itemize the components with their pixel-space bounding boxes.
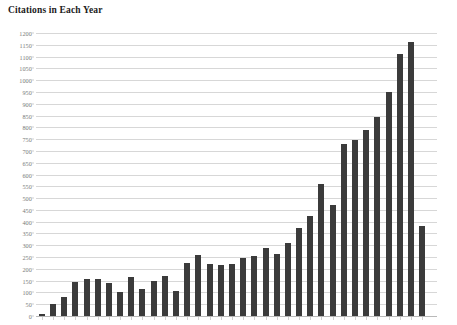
- x-axis-tick-mark: [42, 317, 43, 320]
- y-axis-tick-mark: [31, 245, 34, 246]
- x-axis-tick-mark: [187, 317, 188, 320]
- y-axis-tick-mark: [31, 44, 34, 45]
- bar: [218, 265, 224, 316]
- bar: [95, 279, 101, 316]
- y-axis-tick-mark: [31, 174, 34, 175]
- bar: [285, 243, 291, 316]
- x-axis-tick-mark: [344, 317, 345, 320]
- bar: [296, 228, 302, 316]
- bar: [397, 54, 403, 316]
- x-axis-tick-mark: [232, 317, 233, 320]
- x-axis-tick-mark: [366, 317, 367, 320]
- x-axis-tick-mark: [333, 317, 334, 320]
- bar: [386, 92, 392, 316]
- bar: [419, 226, 425, 316]
- x-axis-tick-mark: [154, 317, 155, 320]
- x-axis-tick-mark: [411, 317, 412, 320]
- bar: [352, 140, 358, 316]
- y-axis: 1200115011001050100095090085080075070065…: [0, 33, 34, 316]
- x-axis-tick-mark: [266, 317, 267, 320]
- x-axis-tick-mark: [87, 317, 88, 320]
- bar: [173, 291, 179, 316]
- bar: [263, 248, 269, 316]
- x-axis-tick-mark: [321, 317, 322, 320]
- bars-series: [36, 33, 437, 316]
- bar: [117, 292, 123, 316]
- y-axis-tick-mark: [31, 139, 34, 140]
- y-axis-tick-mark: [31, 233, 34, 234]
- x-axis-tick-mark: [210, 317, 211, 320]
- x-axis-tick-mark: [288, 317, 289, 320]
- x-axis-tick-mark: [131, 317, 132, 320]
- bar: [251, 256, 257, 316]
- bar: [374, 117, 380, 316]
- x-axis-tick-mark: [254, 317, 255, 320]
- x-axis-tick-mark: [299, 317, 300, 320]
- bar: [61, 297, 67, 316]
- bar: [207, 264, 213, 316]
- bar: [341, 144, 347, 316]
- y-axis-tick-mark: [31, 209, 34, 210]
- chart-title: Citations in Each Year: [8, 5, 103, 15]
- y-axis-tick-mark: [31, 280, 34, 281]
- bar: [408, 42, 414, 316]
- y-axis-tick-mark: [31, 68, 34, 69]
- bar: [363, 130, 369, 316]
- bar: [330, 205, 336, 316]
- y-axis-tick-mark: [31, 257, 34, 258]
- x-axis-tick-mark: [243, 317, 244, 320]
- x-axis-tick-mark: [53, 317, 54, 320]
- x-axis-tick-mark: [142, 317, 143, 320]
- x-axis-tick-mark: [377, 317, 378, 320]
- bar: [240, 258, 246, 316]
- x-axis-tick-mark: [310, 317, 311, 320]
- bar: [274, 254, 280, 316]
- x-axis-ticks: [36, 317, 437, 321]
- bar: [229, 264, 235, 316]
- bar: [139, 289, 145, 316]
- x-axis-tick-mark: [277, 317, 278, 320]
- bar: [72, 282, 78, 316]
- y-axis-tick-mark: [31, 150, 34, 151]
- y-axis-tick-mark: [31, 268, 34, 269]
- y-axis-tick-mark: [31, 316, 34, 317]
- bar: [84, 279, 90, 316]
- y-axis-tick-mark: [31, 56, 34, 57]
- bar: [184, 263, 190, 316]
- citations-bar-chart: Citations in Each Year 12001150110010501…: [0, 0, 457, 325]
- x-axis-tick-mark: [400, 317, 401, 320]
- y-axis-tick-mark: [31, 80, 34, 81]
- x-axis-tick-mark: [165, 317, 166, 320]
- x-axis-tick-mark: [176, 317, 177, 320]
- x-axis-tick-mark: [355, 317, 356, 320]
- bar: [106, 283, 112, 316]
- y-axis-tick-mark: [31, 33, 34, 34]
- y-axis-tick-mark: [31, 162, 34, 163]
- y-axis-tick-mark: [31, 115, 34, 116]
- y-axis-tick-mark: [31, 292, 34, 293]
- y-axis-tick-mark: [31, 103, 34, 104]
- y-axis-tick-mark: [31, 186, 34, 187]
- x-axis-tick-mark: [389, 317, 390, 320]
- y-axis-tick-mark: [31, 127, 34, 128]
- bar: [195, 255, 201, 316]
- bar: [151, 281, 157, 316]
- bar: [50, 304, 56, 316]
- bar: [307, 216, 313, 316]
- y-axis-tick-mark: [31, 91, 34, 92]
- x-axis-tick-mark: [98, 317, 99, 320]
- x-axis-tick-mark: [422, 317, 423, 320]
- bar: [128, 277, 134, 316]
- x-axis-tick-mark: [120, 317, 121, 320]
- bar: [318, 184, 324, 316]
- y-axis-tick-mark: [31, 221, 34, 222]
- plot-area: [36, 33, 437, 316]
- x-axis-tick-mark: [109, 317, 110, 320]
- x-axis-tick-mark: [64, 317, 65, 320]
- x-axis-tick-mark: [221, 317, 222, 320]
- x-axis-tick-mark: [75, 317, 76, 320]
- bar: [162, 276, 168, 316]
- y-axis-tick-mark: [31, 198, 34, 199]
- y-axis-tick-mark: [31, 304, 34, 305]
- x-axis-tick-mark: [198, 317, 199, 320]
